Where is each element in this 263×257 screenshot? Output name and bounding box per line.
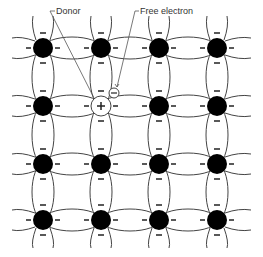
bond-edge (12, 113, 35, 117)
bond-edge (12, 37, 35, 41)
bond-edge (12, 153, 35, 157)
atom (33, 210, 53, 230)
atom (149, 38, 169, 58)
bond-edge (206, 228, 210, 248)
bond-edge (225, 95, 251, 99)
atom (33, 154, 53, 174)
bond-edge (108, 228, 112, 248)
bond-edge (225, 55, 251, 59)
bond-edge (206, 16, 210, 40)
atom (207, 96, 227, 116)
bond-edge (12, 55, 35, 59)
bond-edge (12, 171, 35, 175)
bond-edge (224, 228, 228, 248)
atom (33, 38, 53, 58)
bond-edge (225, 227, 251, 231)
bond-edge (166, 228, 170, 248)
donor-leader-line (50, 11, 94, 98)
bond-edge (12, 209, 35, 213)
bond-edge (32, 16, 36, 40)
bond-edge (50, 16, 54, 40)
bond-edge (225, 153, 251, 157)
bond-edge (12, 227, 35, 231)
lattice-diagram (0, 0, 263, 257)
atom (91, 210, 111, 230)
free-electron-leader-line (117, 11, 139, 87)
bond-edge (90, 228, 94, 248)
donor-label: Donor (56, 6, 81, 16)
bond-edge (148, 16, 152, 40)
bond-edge (225, 37, 251, 41)
bond-edge (225, 171, 251, 175)
atom (207, 154, 227, 174)
atom (33, 96, 53, 116)
bond-edge (108, 16, 112, 40)
atom (91, 38, 111, 58)
bond-edge (225, 113, 251, 117)
atom (207, 38, 227, 58)
bond-edge (90, 16, 94, 40)
bond-edge (225, 209, 251, 213)
atom (149, 210, 169, 230)
atom (207, 210, 227, 230)
atom (149, 154, 169, 174)
bond-edge (32, 228, 36, 248)
bond-edge (166, 16, 170, 40)
free-electron-label: Free electron (140, 6, 193, 16)
bond-edge (224, 16, 228, 40)
bond-edge (12, 95, 35, 99)
atom (149, 96, 169, 116)
bond-edge (50, 228, 54, 248)
atom (91, 154, 111, 174)
bond-edge (148, 228, 152, 248)
